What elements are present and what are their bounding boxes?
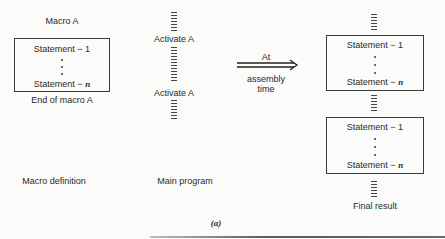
final-result-label: Final result <box>353 201 397 211</box>
ellipsis-dot <box>374 138 376 140</box>
ellipsis-dot <box>374 146 376 148</box>
expansion-2-statement-1: Statement − 1 <box>327 122 423 132</box>
ellipsis-dot <box>374 56 376 58</box>
arrow-label-bottom-2: time <box>257 84 274 94</box>
macro-footer: End of macro A <box>31 95 93 105</box>
expansion-1-statement-n: Statement − n <box>327 77 423 87</box>
ellipsis-dot <box>374 64 376 66</box>
double-arrow-icon <box>236 59 300 71</box>
macro-definition-label: Macro definition <box>22 176 86 186</box>
arrow-label-bottom-1: assembly <box>247 74 285 84</box>
macro-statement-1: Statement − 1 <box>15 44 109 54</box>
ellipsis-dot <box>374 72 376 74</box>
activate-call-1: Activate A <box>154 34 194 44</box>
main-program-label: Main program <box>157 176 213 186</box>
code-lines-ellipsis <box>371 95 377 111</box>
code-lines-ellipsis <box>171 12 177 32</box>
ellipsis-dot <box>61 66 63 68</box>
activate-call-2: Activate A <box>154 88 194 98</box>
expansion-box-1: Statement − 1 Statement − n <box>326 35 424 91</box>
macro-definition-box: Statement − 1 Statement − n <box>14 38 110 92</box>
figure-caption: (a) <box>211 218 222 228</box>
expansion-1-statement-1: Statement − 1 <box>327 40 423 50</box>
expansion-2-statement-n: Statement − n <box>327 160 423 170</box>
macro-statement-n: Statement − n <box>15 79 109 89</box>
code-lines-ellipsis <box>171 47 177 82</box>
ellipsis-dot <box>61 73 63 75</box>
code-lines-ellipsis <box>371 14 377 30</box>
code-lines-ellipsis <box>171 100 177 119</box>
ellipsis-dot <box>374 154 376 156</box>
code-lines-ellipsis <box>371 181 377 197</box>
ellipsis-dot <box>61 59 63 61</box>
expansion-box-2: Statement − 1 Statement − n <box>326 117 424 174</box>
macro-header: Macro A <box>45 16 78 26</box>
bottom-rule <box>150 236 445 238</box>
